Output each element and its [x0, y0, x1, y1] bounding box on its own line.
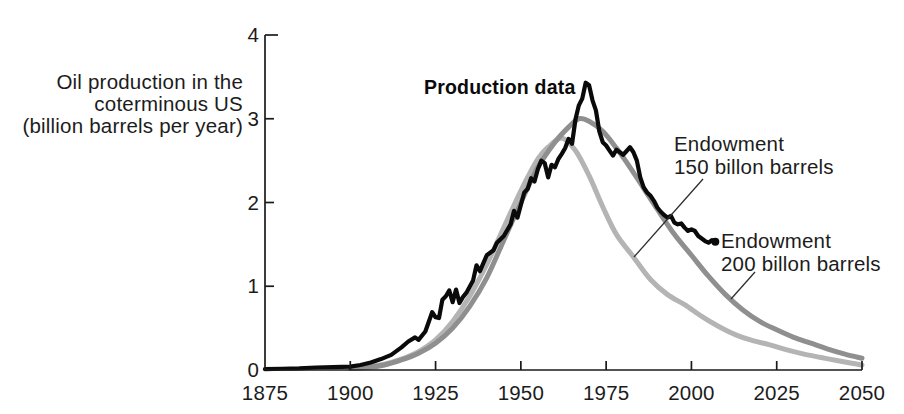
y-tick-label-2: 2: [247, 191, 259, 214]
y-axis-title: Oil production in the coterminous US (bi…: [0, 71, 243, 137]
endowment-150-label-line-1: Endowment: [674, 133, 834, 156]
x-tick-label-2050: 2050: [839, 381, 885, 404]
chart-curves: [265, 83, 862, 369]
x-tick-label-2025: 2025: [754, 381, 800, 404]
production-data-curve: [265, 83, 715, 369]
endowment-200-leader-line: [731, 272, 755, 299]
y-axis-title-line-1: Oil production in the: [0, 71, 243, 93]
production-data-end-dot: [711, 238, 719, 246]
oil-production-chart: 0123418751900192519501975200020252050: [0, 0, 904, 414]
y-axis-title-line-3: (billion barrels per year): [0, 115, 243, 137]
x-tick-label-1875: 1875: [242, 381, 288, 404]
x-tick-label-2000: 2000: [668, 381, 714, 404]
endowment-200-label-line-1: Endowment: [721, 230, 881, 253]
endowment-150-label-line-2: 150 billon barrels: [674, 156, 834, 179]
production-data-label: Production data: [424, 77, 575, 99]
y-axis-title-line-2: coterminous US: [0, 93, 243, 115]
oil-production-figure: 0123418751900192519501975200020252050 Oi…: [0, 0, 904, 414]
endowment-150-label: Endowment 150 billon barrels: [674, 133, 834, 179]
x-tick-label-1975: 1975: [583, 381, 629, 404]
y-tick-label-3: 3: [247, 107, 259, 130]
x-tick-label-1925: 1925: [412, 381, 458, 404]
y-tick-label-4: 4: [247, 23, 259, 46]
x-tick-label-1950: 1950: [498, 381, 544, 404]
x-tick-label-1900: 1900: [327, 381, 373, 404]
y-tick-label-0: 0: [247, 358, 259, 381]
endowment-200-label: Endowment 200 billon barrels: [721, 230, 881, 276]
endowment-200-label-line-2: 200 billon barrels: [721, 253, 881, 276]
y-tick-label-1: 1: [247, 274, 259, 297]
